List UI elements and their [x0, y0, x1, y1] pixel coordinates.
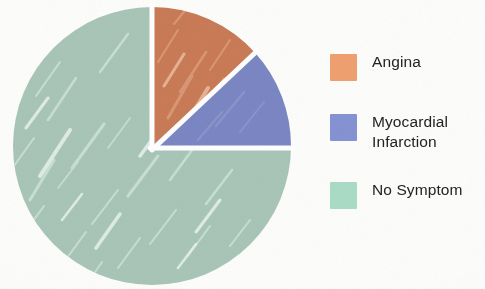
legend-item-angina[interactable]: Angina [330, 52, 421, 81]
legend-swatch-angina [330, 54, 357, 81]
legend-item-myocardial-infarction[interactable]: Myocardial Infarction [330, 112, 448, 152]
legend-swatch-myocardial-infarction [330, 114, 357, 141]
legend-label-myocardial-infarction: Myocardial Infarction [372, 112, 448, 152]
legend-item-no-symptom[interactable]: No Symptom [330, 180, 463, 209]
legend-swatch-no-symptom [330, 182, 357, 209]
pie-chart-area [0, 0, 320, 289]
legend-label-no-symptom: No Symptom [372, 180, 463, 200]
pie-chart-figure: Angina Myocardial Infarction No Symptom [0, 0, 485, 289]
legend-label-angina: Angina [372, 52, 421, 72]
pie-svg [0, 0, 320, 289]
